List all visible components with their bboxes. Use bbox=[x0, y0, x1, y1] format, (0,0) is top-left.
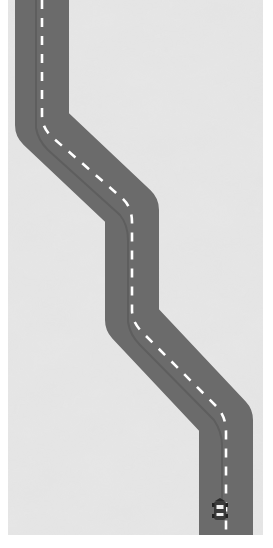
game-canvas[interactable] bbox=[8, 0, 263, 535]
game-scene bbox=[8, 0, 263, 535]
